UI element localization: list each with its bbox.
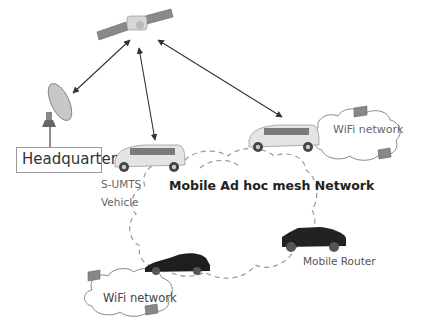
van-icon — [249, 125, 319, 152]
mesh-network-cloud — [130, 149, 317, 279]
mesh-network-label: Mobile Ad hoc mesh Network — [169, 178, 374, 193]
satellite-links — [50, 40, 282, 147]
headquarter-label: Headquarter — [22, 150, 117, 168]
satellite-icon — [97, 9, 173, 40]
satellite-dish-icon — [42, 80, 77, 127]
wifi-network-top-label: WiFi network — [333, 123, 403, 136]
network-diagram: Headquarter S-UMTS Vehicle Mobile Ad hoc… — [0, 0, 423, 326]
mobile-router-label: Mobile Router — [303, 255, 376, 267]
wifi-network-bottom-label: WiFi network — [103, 291, 177, 305]
sports-car-icon — [145, 253, 210, 275]
mobile-router-icon — [282, 227, 346, 252]
sumts-line1: S-UMTS — [101, 175, 141, 193]
sumts-vehicle-label: S-UMTS Vehicle — [101, 175, 141, 211]
sumts-line2: Vehicle — [101, 193, 141, 211]
